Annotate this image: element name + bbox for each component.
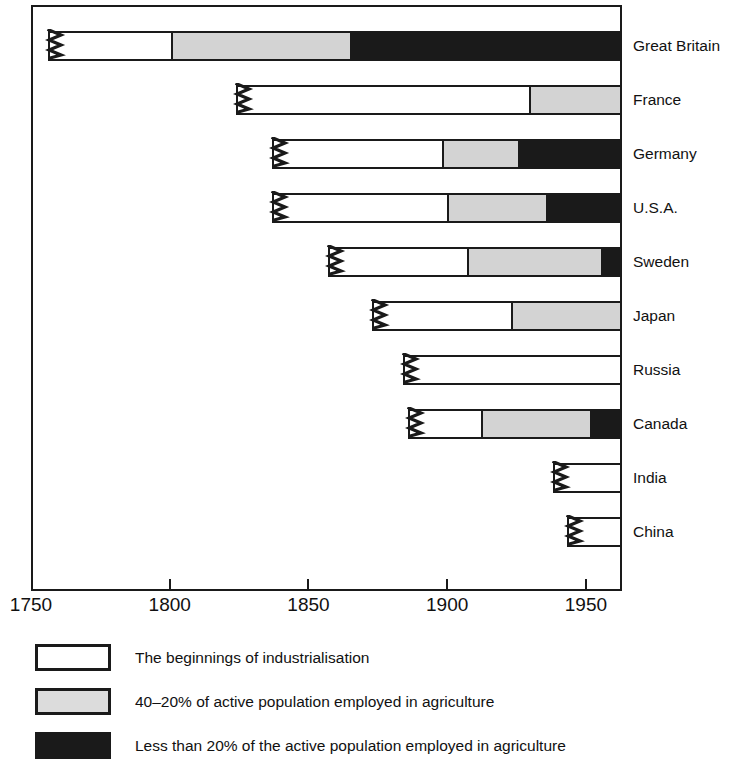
- bar-segment-beginnings: [555, 465, 620, 491]
- bar-segment-less-than-twenty: [601, 249, 620, 275]
- bar-segment-forty-to-twenty: [481, 411, 590, 437]
- legend-item-black: Less than 20% of the active population e…: [35, 732, 566, 759]
- legend-item-grey: 40–20% of active population employed in …: [35, 688, 494, 715]
- legend-swatch-white: [35, 644, 111, 671]
- bar-india: [553, 463, 622, 493]
- country-label-u-s-a: U.S.A.: [633, 200, 678, 216]
- bar-segment-less-than-twenty: [590, 411, 620, 437]
- bar-china: [567, 517, 622, 547]
- legend-label: The beginnings of industrialisation: [135, 650, 369, 666]
- bar-track: [48, 31, 622, 61]
- legend-label: Less than 20% of the active population e…: [135, 738, 566, 754]
- legend-swatch-grey: [35, 688, 111, 715]
- bar-track: [567, 517, 622, 547]
- bar-france: [236, 85, 622, 115]
- x-tick-label-1950: 1950: [565, 595, 607, 614]
- bar-segment-less-than-twenty: [546, 195, 620, 221]
- bar-segment-forty-to-twenty: [511, 303, 620, 329]
- bar-great-britain: [48, 31, 622, 61]
- bar-segment-beginnings: [405, 357, 620, 383]
- bar-track: [408, 409, 622, 439]
- bar-segment-forty-to-twenty: [529, 87, 620, 113]
- bar-track: [272, 139, 622, 169]
- country-label-canada: Canada: [633, 416, 687, 432]
- bar-track: [403, 355, 622, 385]
- bar-segment-beginnings: [410, 411, 481, 437]
- bar-track: [236, 85, 622, 115]
- country-label-sweden: Sweden: [633, 254, 689, 270]
- bar-germany: [272, 139, 622, 169]
- country-label-germany: Germany: [633, 146, 697, 162]
- legend-swatch-black: [35, 732, 111, 759]
- bar-segment-beginnings: [274, 141, 441, 167]
- bar-canada: [408, 409, 622, 439]
- bar-track: [372, 301, 622, 331]
- bar-segment-less-than-twenty: [518, 141, 619, 167]
- country-label-russia: Russia: [633, 362, 680, 378]
- bar-segment-beginnings: [374, 303, 511, 329]
- bar-u-s-a: [272, 193, 622, 223]
- x-tick-label-1800: 1800: [149, 595, 191, 614]
- x-tick-label-1900: 1900: [426, 595, 468, 614]
- bar-segment-beginnings: [330, 249, 467, 275]
- legend-item-white: The beginnings of industrialisation: [35, 644, 369, 671]
- bar-segment-beginnings: [274, 195, 447, 221]
- bar-track: [328, 247, 622, 277]
- bar-segment-forty-to-twenty: [442, 141, 519, 167]
- bar-russia: [403, 355, 622, 385]
- bar-segment-beginnings: [569, 519, 620, 545]
- legend-label: 40–20% of active population employed in …: [135, 694, 494, 710]
- x-tick-label-1850: 1850: [287, 595, 329, 614]
- country-label-china: China: [633, 524, 674, 540]
- bar-segment-forty-to-twenty: [447, 195, 546, 221]
- bar-track: [272, 193, 622, 223]
- bar-sweden: [328, 247, 622, 277]
- x-tick-label-1750: 1750: [10, 595, 52, 614]
- country-label-france: France: [633, 92, 681, 108]
- bar-segment-beginnings: [238, 87, 529, 113]
- country-label-japan: Japan: [633, 308, 675, 324]
- bar-segment-forty-to-twenty: [171, 33, 350, 59]
- bar-segment-forty-to-twenty: [467, 249, 601, 275]
- bar-japan: [372, 301, 622, 331]
- country-label-great-britain: Great Britain: [633, 38, 720, 54]
- bar-track: [553, 463, 622, 493]
- bar-segment-beginnings: [50, 33, 171, 59]
- bar-segment-less-than-twenty: [350, 33, 620, 59]
- country-label-india: India: [633, 470, 667, 486]
